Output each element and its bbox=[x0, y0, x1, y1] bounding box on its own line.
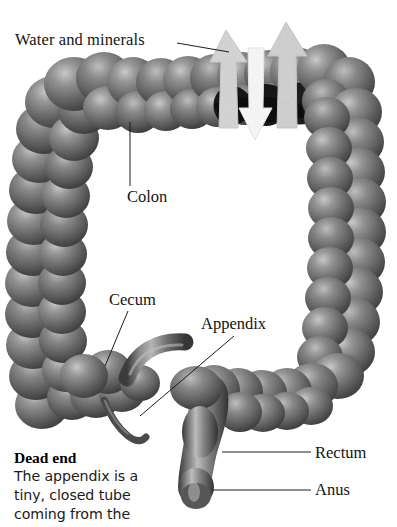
caption-line: The appendix is a bbox=[14, 467, 189, 486]
descending-colon bbox=[297, 88, 386, 378]
label-cecum: Cecum bbox=[109, 292, 156, 309]
label-water-and-minerals: Water and minerals bbox=[15, 32, 145, 49]
label-rectum: Rectum bbox=[315, 445, 366, 462]
caption-body: The appendix is a tiny, closed tube comi… bbox=[14, 467, 189, 524]
caption-title: Dead end bbox=[14, 449, 189, 466]
caption-line: tiny, closed tube bbox=[14, 486, 189, 505]
anatomy-figure: Water and minerals Colon Cecum Appendix … bbox=[0, 0, 397, 527]
label-appendix: Appendix bbox=[201, 316, 266, 333]
caption-block: Dead end The appendix is a tiny, closed … bbox=[14, 449, 189, 524]
label-colon: Colon bbox=[127, 189, 167, 206]
label-anus: Anus bbox=[315, 482, 350, 499]
caption-line: coming from the bbox=[14, 505, 189, 524]
